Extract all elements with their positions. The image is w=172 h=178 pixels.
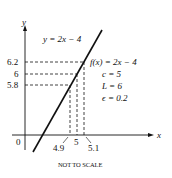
x-tick-4.9: 4.9 bbox=[53, 143, 65, 153]
x-tick-5: 5 bbox=[74, 137, 79, 147]
annotation-c: c = 5 bbox=[102, 69, 122, 79]
annotation-epsilon: ϵ = 0.2 bbox=[102, 93, 128, 103]
line-equation-text: y = 2x − 4 bbox=[42, 34, 82, 44]
origin-label: 0 bbox=[16, 137, 21, 147]
diagram-canvas: y x 0 y = 2x − 4 6.2 6 5.8 4.9 5 5.1 f(x… bbox=[0, 0, 172, 178]
y-tick-6.2: 6.2 bbox=[7, 57, 18, 67]
x-axis-label: x bbox=[156, 130, 161, 140]
y-axis-label: y bbox=[21, 17, 26, 27]
y-tick-5.8: 5.8 bbox=[7, 80, 19, 90]
function-line bbox=[33, 30, 102, 152]
y-tick-6: 6 bbox=[14, 69, 19, 79]
footer-note: NOT TO SCALE bbox=[58, 161, 102, 168]
x-axis-arrow-icon bbox=[148, 133, 154, 137]
annotation-function: f(x) = 2x − 4 bbox=[90, 57, 137, 67]
annotation-L: L = 6 bbox=[101, 81, 122, 91]
x-tick-5.1: 5.1 bbox=[88, 143, 99, 153]
line-equation-label: y = 2x − 4 bbox=[42, 34, 82, 44]
